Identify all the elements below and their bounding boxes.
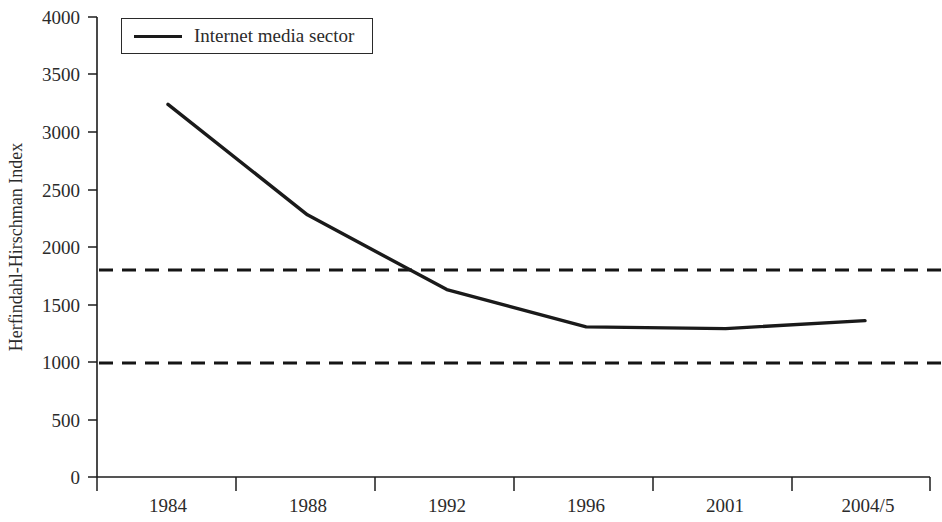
x-tick-label-1988: 1988: [289, 495, 327, 516]
legend-swatch-internet-media-sector: [134, 35, 182, 38]
x-tick-label-2004-5: 2004/5: [842, 495, 895, 516]
y-axis-ticks: [88, 17, 97, 477]
x-tick-label-1992: 1992: [428, 495, 466, 516]
x-tick-label-1996: 1996: [567, 495, 605, 516]
series-line-internet-media-sector: [168, 104, 865, 328]
y-tick-label-1500: 1500: [42, 295, 80, 316]
chart-canvas: 4000 3500 3000 2500 2000 1500 1000 500 0…: [0, 0, 942, 522]
y-tick-label-500: 500: [52, 410, 81, 431]
y-tick-label-1000: 1000: [42, 352, 80, 373]
chart-legend: Internet media sector: [121, 18, 373, 54]
x-axis-ticks: [97, 477, 930, 491]
x-tick-label-1984: 1984: [149, 495, 188, 516]
y-tick-label-3500: 3500: [42, 64, 80, 85]
y-tick-label-0: 0: [71, 467, 81, 488]
y-tick-label-4000: 4000: [42, 7, 80, 28]
x-tick-label-2001: 2001: [706, 495, 744, 516]
legend-label-internet-media-sector: Internet media sector: [194, 25, 354, 47]
y-tick-label-3000: 3000: [42, 122, 80, 143]
y-tick-label-2500: 2500: [42, 180, 80, 201]
y-axis-title: Herfindahl-Hirschman Index: [6, 143, 26, 351]
chart-figure: 4000 3500 3000 2500 2000 1500 1000 500 0…: [0, 0, 942, 522]
y-tick-label-2000: 2000: [42, 237, 80, 258]
